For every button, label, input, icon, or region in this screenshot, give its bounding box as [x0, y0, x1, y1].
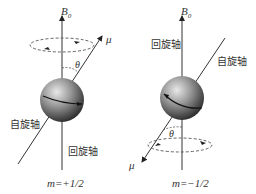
precession-arrow-icon [74, 41, 80, 44]
b0-symbol: B [61, 5, 68, 17]
mu-label: μ [106, 34, 112, 45]
precession-axis-label: 回旋轴 [68, 147, 98, 157]
spin-axis-label: 自旋轴 [10, 120, 40, 130]
m-value-label: m=+1/2 [47, 178, 84, 189]
precession-axis-label: 回旋轴 [151, 40, 181, 50]
m-value-label: m=−1/2 [172, 178, 209, 189]
precession-arrow-icon [44, 47, 50, 50]
precession-arrow-icon [155, 143, 161, 146]
nuclear-spin-diagram [0, 0, 256, 194]
theta-label: θ [169, 129, 174, 139]
b0-symbol: B [181, 5, 188, 17]
b0-label: B0 [61, 6, 71, 20]
nucleus-sphere [40, 78, 84, 122]
theta-label: θ [75, 60, 80, 70]
b0-label: B0 [181, 6, 191, 20]
spin-axis-label: 自旋轴 [217, 57, 247, 67]
b0-subscript: 0 [188, 12, 192, 20]
mu-label: μ [129, 160, 135, 171]
precession-arrow-icon [200, 141, 206, 145]
b0-subscript: 0 [68, 12, 72, 20]
